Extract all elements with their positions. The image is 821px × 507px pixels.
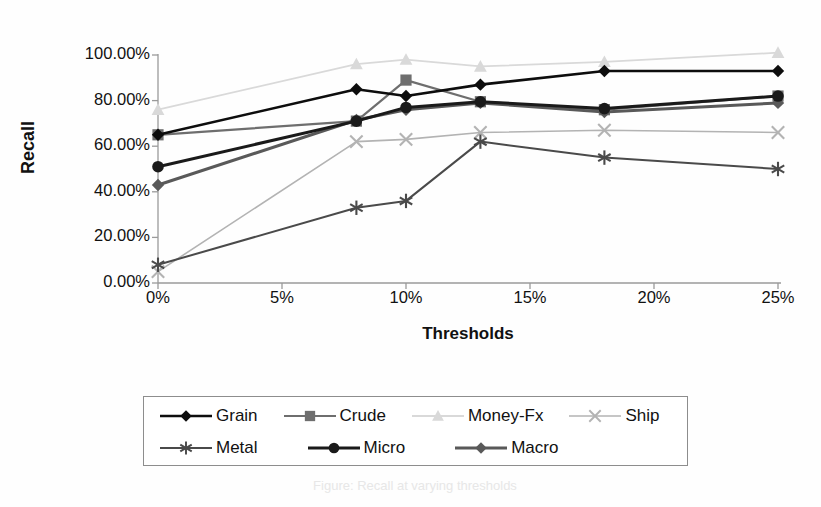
diamond-marker-icon xyxy=(152,179,164,191)
diamond-marker-icon xyxy=(474,78,486,90)
legend-row: MetalMicroMacro xyxy=(144,432,687,464)
circle-marker-icon xyxy=(152,161,164,173)
x-axis-tick-label: 25% xyxy=(738,288,818,307)
series-line xyxy=(158,142,778,265)
circle-marker-icon xyxy=(400,102,412,114)
x-axis-tick-label: 0% xyxy=(118,288,198,307)
chart-legend: GrainCrudeMoney-FxShip MetalMicroMacro xyxy=(143,396,688,466)
circle-marker-icon xyxy=(772,90,784,102)
series-layer xyxy=(152,46,785,277)
triangle-legend-icon xyxy=(410,405,466,427)
legend-item-metal[interactable]: Metal xyxy=(158,437,260,459)
series-macro xyxy=(152,97,784,191)
square-marker-icon xyxy=(400,74,411,85)
circle-marker-icon xyxy=(599,103,611,115)
circle-legend-icon xyxy=(306,437,362,459)
legend-key-swatch xyxy=(410,405,466,427)
legend-key-swatch xyxy=(282,405,338,427)
legend-item-label: Micro xyxy=(362,438,408,458)
legend-row: GrainCrudeMoney-FxShip xyxy=(144,400,687,432)
legend-item-macro[interactable]: Macro xyxy=(453,437,560,459)
legend-item-crude[interactable]: Crude xyxy=(282,405,388,427)
x-axis-tick-label: 20% xyxy=(614,288,694,307)
diamond-legend-icon xyxy=(158,405,214,427)
legend-key-swatch xyxy=(567,405,623,427)
asterisk-legend-icon xyxy=(158,437,214,459)
legend-item-label: Money-Fx xyxy=(466,406,546,426)
legend-item-label: Metal xyxy=(214,438,260,458)
diamond-marker-icon xyxy=(772,65,784,77)
x-axis-tick-label: 15% xyxy=(490,288,570,307)
y-axis-title: Recall xyxy=(18,98,39,198)
y-axis-tick-label: 60.00% xyxy=(54,135,150,154)
legend-key-swatch xyxy=(158,437,214,459)
legend-key-swatch xyxy=(158,405,214,427)
diamond-marker-icon xyxy=(400,90,412,102)
recall-threshold-line-chart: 0.00%20.00%40.00%60.00%80.00%100.00% 0%5… xyxy=(0,0,821,380)
x-axis-tick-label: 5% xyxy=(242,288,322,307)
legend-item-grain[interactable]: Grain xyxy=(158,405,260,427)
diamond-marker-icon xyxy=(180,410,191,421)
legend-item-micro[interactable]: Micro xyxy=(306,437,408,459)
diamond-marker-icon xyxy=(350,83,362,95)
scan-caption-artifact: Figure: Recall at varying thresholds xyxy=(150,478,680,493)
legend-item-money-fx[interactable]: Money-Fx xyxy=(410,405,546,427)
y-axis-tick-label: 40.00% xyxy=(54,181,150,200)
x-axis-title: Thresholds xyxy=(158,324,778,344)
page-root: 0.00%20.00%40.00%60.00%80.00%100.00% 0%5… xyxy=(0,0,821,507)
circle-marker-icon xyxy=(475,96,487,108)
y-axis-tick-label: 20.00% xyxy=(54,226,150,245)
triangle-marker-icon xyxy=(400,53,413,65)
circle-marker-icon xyxy=(351,115,363,127)
legend-item-label: Crude xyxy=(338,406,388,426)
legend-item-label: Grain xyxy=(214,406,260,426)
square-legend-icon xyxy=(282,405,338,427)
asterisk-marker-icon xyxy=(152,258,164,272)
x-axis-tick-label: 10% xyxy=(366,288,446,307)
legend-key-swatch xyxy=(306,437,362,459)
cross-legend-icon xyxy=(567,405,623,427)
legend-item-label: Macro xyxy=(509,438,560,458)
legend-key-swatch xyxy=(453,437,509,459)
diamond-legend-icon xyxy=(453,437,509,459)
y-axis-tick-label: 100.00% xyxy=(54,44,150,63)
square-marker-icon xyxy=(304,411,314,421)
y-axis-tick-labels: 0.00%20.00%40.00%60.00%80.00%100.00% xyxy=(40,0,150,300)
legend-item-ship[interactable]: Ship xyxy=(567,405,661,427)
y-axis-tick-label: 80.00% xyxy=(54,90,150,109)
diamond-marker-icon xyxy=(475,442,486,453)
legend-item-label: Ship xyxy=(623,406,661,426)
circle-marker-icon xyxy=(328,443,339,454)
